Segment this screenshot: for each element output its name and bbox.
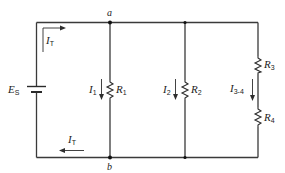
resistor-r3-label: R3 bbox=[263, 58, 275, 71]
total-current-arrow-bottom-icon bbox=[59, 148, 84, 153]
junction-bottom-dot bbox=[183, 156, 186, 159]
current-i1-arrow-icon bbox=[99, 79, 104, 100]
resistor-r2-icon bbox=[182, 80, 188, 100]
node-a-label: a bbox=[107, 7, 112, 18]
total-current-bottom-label: IT bbox=[67, 133, 77, 146]
source-label: ES bbox=[7, 83, 20, 96]
resistor-r1-icon bbox=[107, 80, 113, 100]
resistor-r2-label: R2 bbox=[190, 83, 202, 96]
current-i2-label: I2 bbox=[162, 83, 171, 96]
node-b-label: b bbox=[107, 161, 112, 172]
resistor-r3-icon bbox=[255, 56, 261, 74]
current-i34-arrow-icon bbox=[250, 79, 255, 101]
junction-top-dot bbox=[183, 21, 186, 24]
current-i34-label: I3-4 bbox=[229, 82, 244, 95]
node-b-dot bbox=[108, 156, 112, 160]
resistor-r1-label: R1 bbox=[115, 83, 127, 96]
battery-source-icon bbox=[27, 87, 46, 93]
circuit-diagram: a b ES IT IT I1 R1 I2 R2 R3 R4 I3-4 bbox=[0, 0, 285, 173]
node-a-dot bbox=[108, 21, 112, 25]
resistor-r4-icon bbox=[255, 107, 261, 127]
current-i2-arrow-icon bbox=[173, 79, 178, 100]
current-i1-label: I1 bbox=[88, 83, 97, 96]
resistor-r4-label: R4 bbox=[263, 111, 275, 124]
total-current-top-label: IT bbox=[45, 34, 55, 47]
